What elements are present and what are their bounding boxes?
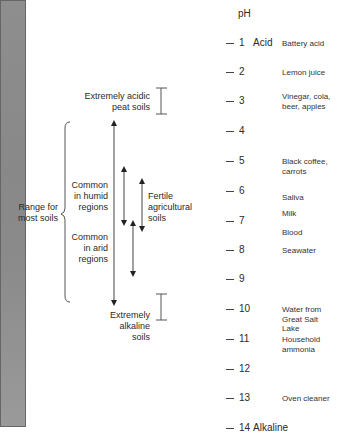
brace-most-soils [61, 122, 70, 302]
ibar-extremely-alkaline [156, 294, 167, 320]
range-graphics [0, 0, 347, 448]
ibar-acidic-peat [156, 88, 167, 114]
